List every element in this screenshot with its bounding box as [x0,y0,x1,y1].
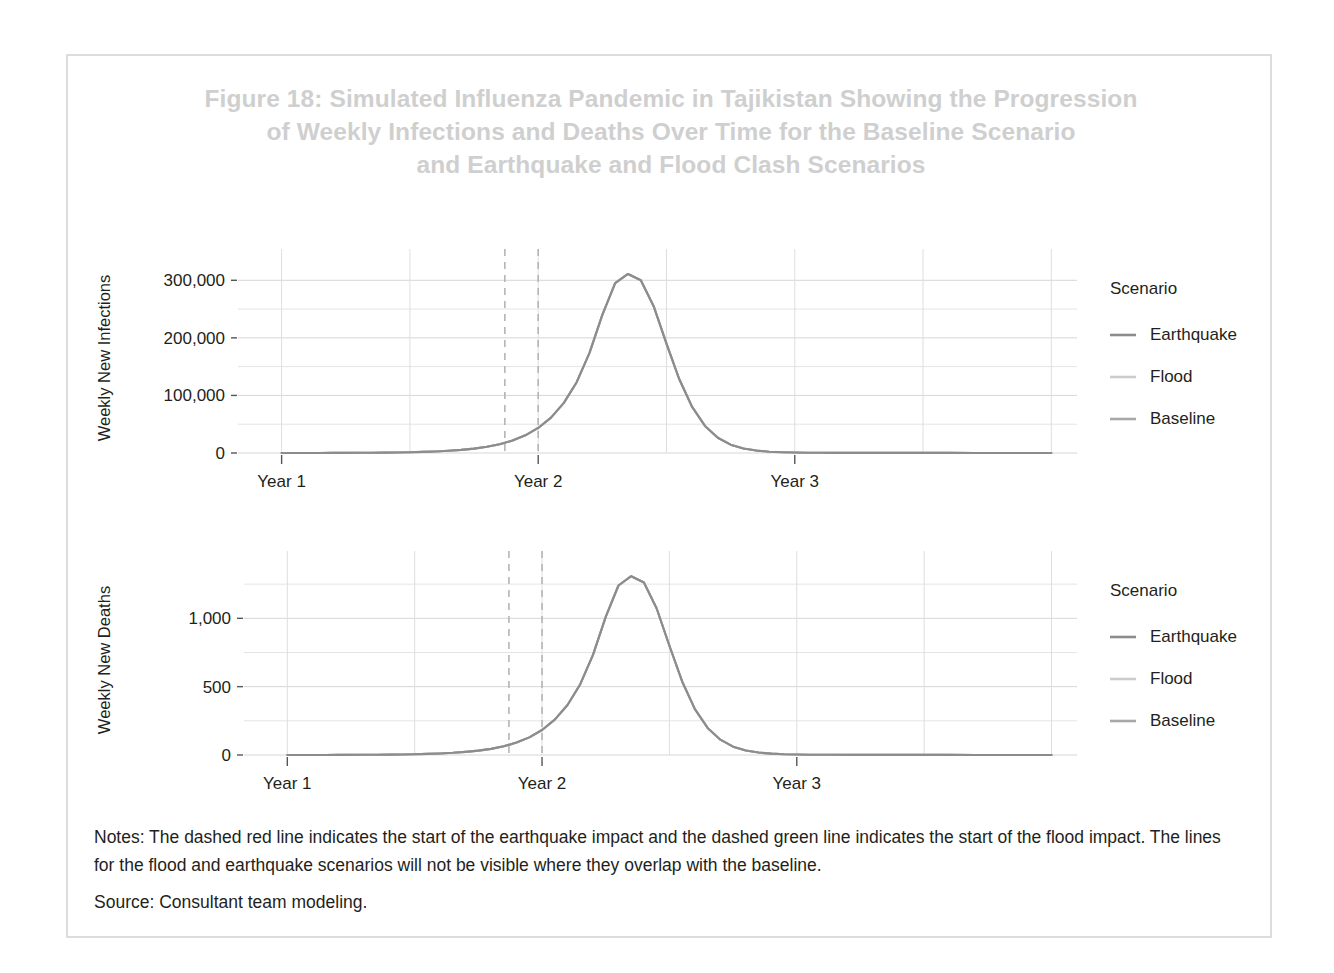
deaths-plot-svg: 05001,000Year 1Year 2Year 3Weekly New De… [68,543,1274,808]
y-tick-label: 500 [203,678,231,697]
notes-paragraph: Notes: The dashed red line indicates the… [94,823,1234,879]
chart-weekly-new-deaths: 05001,000Year 1Year 2Year 3Weekly New De… [68,543,1274,808]
y-axis-title: Weekly New Infections [95,275,113,442]
x-tick-label: Year 3 [773,774,822,793]
x-tick-label: Year 1 [257,472,306,491]
legend-label-flood[interactable]: Flood [1150,367,1193,386]
y-tick-label: 100,000 [164,386,225,405]
figure-title: Figure 18: Simulated Influenza Pandemic … [68,82,1274,181]
legend-label-earthquake[interactable]: Earthquake [1150,627,1237,646]
legend-label-earthquake[interactable]: Earthquake [1150,325,1237,344]
y-tick-label: 200,000 [164,329,225,348]
x-tick-label: Year 3 [771,472,820,491]
legend-label-flood[interactable]: Flood [1150,669,1193,688]
x-tick-label: Year 2 [514,472,563,491]
legend-label-baseline[interactable]: Baseline [1150,409,1215,428]
y-tick-label: 0 [222,746,231,765]
source-paragraph: Source: Consultant team modeling. [94,888,1234,916]
legend-title: Scenario [1110,581,1177,600]
legend-label-baseline[interactable]: Baseline [1150,711,1215,730]
y-tick-label: 300,000 [164,271,225,290]
y-tick-label: 0 [216,444,225,463]
x-tick-label: Year 1 [263,774,312,793]
chart-weekly-new-infections: 0100,000200,000300,000Year 1Year 2Year 3… [68,241,1274,506]
figure-notes: Notes: The dashed red line indicates the… [94,823,1234,916]
infections-plot-svg: 0100,000200,000300,000Year 1Year 2Year 3… [68,241,1274,506]
x-tick-label: Year 2 [518,774,567,793]
y-axis-title: Weekly New Deaths [95,586,113,734]
y-tick-label: 1,000 [188,609,231,628]
figure-container: Figure 18: Simulated Influenza Pandemic … [66,54,1272,938]
legend-title: Scenario [1110,279,1177,298]
